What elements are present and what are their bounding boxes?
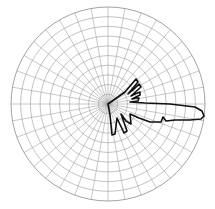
radiation-pattern-curve <box>108 79 204 135</box>
polar-chart <box>0 0 215 209</box>
